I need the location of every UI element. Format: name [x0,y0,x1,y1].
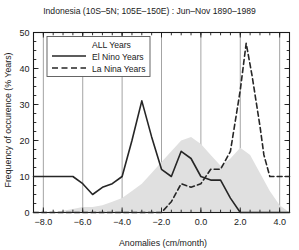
y-tick-label: 40 [19,64,29,74]
chart-title: Indonesia (10S–5N; 105E–150E) : Jun–Nov … [43,6,256,16]
x-axis-label: Anomalies (cm/month) [119,238,207,248]
chart-canvas: Indonesia (10S–5N; 105E–150E) : Jun–Nov … [0,0,299,250]
y-tick-label: 20 [19,136,29,146]
y-tick-label: 0 [24,208,29,218]
y-tick-label: 10 [19,172,29,182]
chart-figure: Indonesia (10S–5N; 105E–150E) : Jun–Nov … [0,0,299,250]
chart-legend: ALL Years El Nino Years La Nina Years [47,37,150,77]
x-tick-label: −8.0 [34,217,52,227]
y-axis-label: Frequency of occurence (% Years) [3,52,13,187]
x-tick-label: 2.0 [234,217,247,227]
y-tick-label: 50 [19,28,29,38]
legend-label-all-years: ALL Years [92,40,131,50]
x-tick-label: −2.0 [153,217,171,227]
x-tick-label: 4.0 [273,217,286,227]
legend-label-el-nino: El Nino Years [92,52,144,62]
legend-label-la-nina: La Nina Years [92,64,146,74]
x-tick-label: −6.0 [74,217,92,227]
x-tick-label: −4.0 [113,217,131,227]
y-tick-label: 30 [19,100,29,110]
x-tick-label: 0.0 [195,217,208,227]
